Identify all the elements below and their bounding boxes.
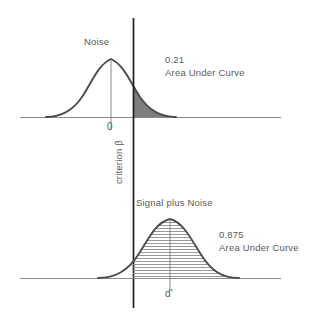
noise-area-caption: Area Under Curve [165,66,245,79]
signal-area-annotation: 0.875 Area Under Curve [219,228,299,254]
noise-area-value: 0.21 [165,53,245,66]
noise-curve-label: Noise [84,36,109,47]
noise-area-annotation: 0.21 Area Under Curve [165,53,245,79]
signal-hatched-area [98,219,239,278]
distribution-plot [0,0,320,322]
criterion-beta-label: criterion β [113,140,124,184]
signal-area-caption: Area Under Curve [219,241,299,254]
signal-area-value: 0.875 [219,228,299,241]
signal-plus-noise-curve-label: Signal plus Noise [136,197,213,208]
noise-mean-axis-label: 0 [107,121,113,132]
signal-detection-figure: Noise 0 criterion β Signal plus Noise d'… [0,0,320,322]
dprime-axis-label: d' [165,288,173,299]
